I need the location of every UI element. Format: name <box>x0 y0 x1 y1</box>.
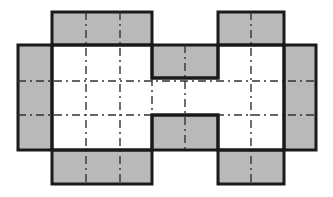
top-left-tab <box>52 12 152 45</box>
box-net-diagram <box>0 0 333 197</box>
right-flap <box>284 45 316 150</box>
left-flap <box>18 45 52 150</box>
bottom-left-tab <box>52 150 152 184</box>
